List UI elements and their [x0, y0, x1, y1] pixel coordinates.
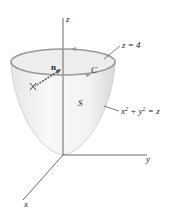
normal-label: n — [51, 62, 56, 72]
curve-label: C — [91, 65, 98, 75]
y-axis-label: y — [145, 154, 150, 164]
paraboloid-diagram: z y x n C z = 4 S x2 + y2 = z — [0, 0, 173, 211]
x-axis — [23, 155, 63, 200]
surface-equation: x2 + y2 = z — [120, 106, 160, 116]
plane-label: z = 4 — [121, 40, 141, 50]
z-axis-label: z — [65, 14, 70, 24]
surface-label: S — [78, 98, 83, 108]
surface-leader-line — [104, 106, 119, 111]
x-axis-label: x — [23, 199, 28, 209]
eq-plus-y: + y — [128, 106, 143, 116]
eq-rest: = z — [146, 106, 161, 116]
